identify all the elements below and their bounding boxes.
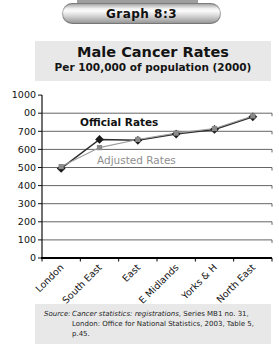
square-marker (212, 126, 217, 131)
chart-title: Male Cancer Rates (35, 44, 271, 60)
y-tick-label: 0 (30, 252, 36, 263)
series-label: Adjusted Rates (97, 154, 176, 166)
y-tick-label: 00 (24, 107, 36, 118)
source-citation: Cancer statistics: registrations, Series… (72, 309, 265, 339)
page: Graph 8:3 Male Cancer Rates Per 100,000 … (0, 0, 279, 358)
line-chart: 0100200300400500600700001000LondonSouth … (0, 86, 279, 304)
square-marker (250, 113, 255, 118)
y-tick-label: 1000 (12, 89, 36, 100)
x-category-label: London (33, 262, 65, 294)
x-category-label: North East (214, 261, 257, 304)
y-tick-label: 500 (18, 162, 36, 173)
x-category-label: East (120, 261, 142, 283)
square-marker (59, 164, 64, 169)
series-label: Official Rates (80, 116, 158, 128)
square-marker (174, 131, 179, 136)
graph-number-banner: Graph 8:3 (62, 3, 221, 24)
square-marker (97, 145, 102, 150)
y-tick-label: 200 (18, 216, 36, 227)
source-publication: Cancer statistics: registrations (72, 310, 179, 318)
x-category-label: Yorks & H (178, 262, 219, 303)
x-category-label: E Midlands (136, 262, 180, 304)
source-label: Source: (44, 309, 72, 339)
y-tick-label: 300 (18, 198, 36, 209)
y-tick-label: 600 (18, 144, 36, 155)
y-tick-label: 400 (18, 180, 36, 191)
y-tick-label: 700 (18, 126, 36, 137)
square-marker (135, 137, 140, 142)
graph-number-label: Graph 8:3 (106, 7, 177, 21)
x-category-label: South East (60, 261, 104, 304)
chart-title-box: Male Cancer Rates Per 100,000 of populat… (35, 41, 271, 81)
y-tick-label: 100 (18, 234, 36, 245)
chart-subtitle: Per 100,000 of population (2000) (35, 61, 271, 73)
source-note: Source: Cancer statistics: registrations… (35, 304, 271, 344)
